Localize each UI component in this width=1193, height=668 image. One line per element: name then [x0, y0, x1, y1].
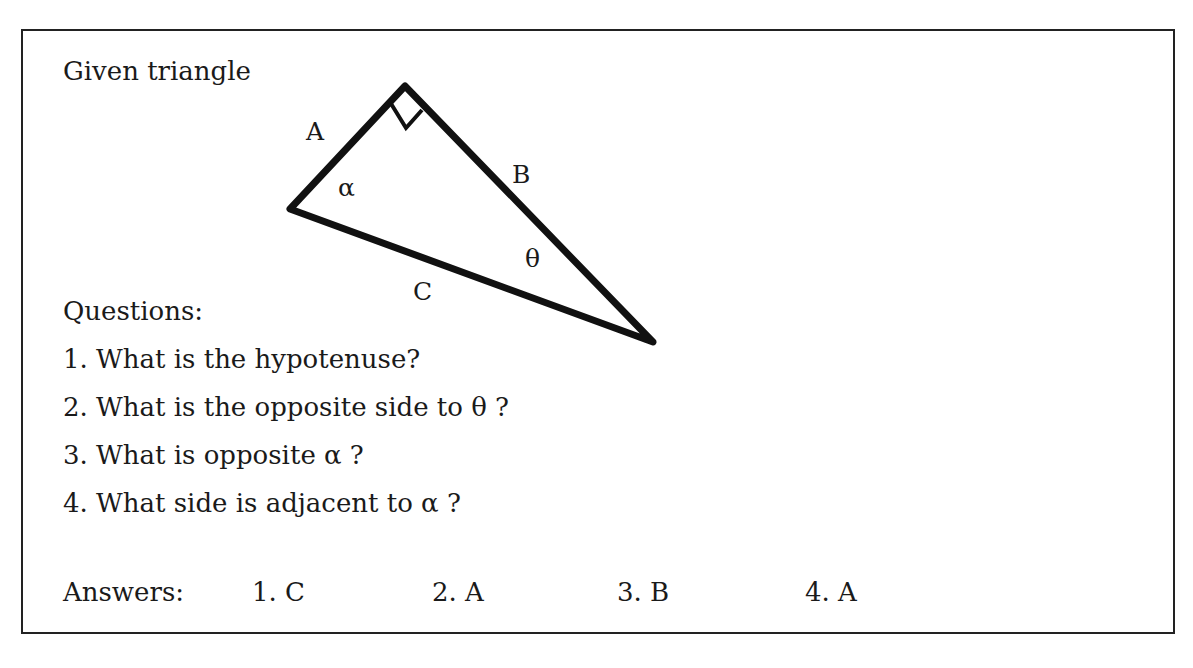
side-label-b: B — [512, 160, 530, 189]
questions-heading: Questions: — [63, 298, 203, 324]
triangle-shape — [290, 86, 653, 342]
question-1: 1. What is the hypotenuse? — [63, 346, 420, 372]
angle-label-theta: θ — [525, 244, 540, 273]
question-3: 3. What is opposite α ? — [63, 442, 364, 468]
answer-1: 1. C — [252, 579, 305, 605]
side-label-a: A — [305, 117, 325, 146]
answer-4: 4. A — [805, 579, 857, 605]
side-label-c: C — [413, 277, 432, 306]
answer-2: 2. A — [432, 579, 484, 605]
angle-label-alpha: α — [338, 173, 355, 202]
question-4: 4. What side is adjacent to α ? — [63, 490, 461, 516]
question-2: 2. What is the opposite side to θ ? — [63, 394, 509, 420]
answers-label: Answers: — [63, 579, 184, 605]
answer-3: 3. B — [617, 579, 669, 605]
triangle-diagram: A B C α θ — [0, 0, 1193, 668]
right-angle-marker — [390, 102, 422, 128]
